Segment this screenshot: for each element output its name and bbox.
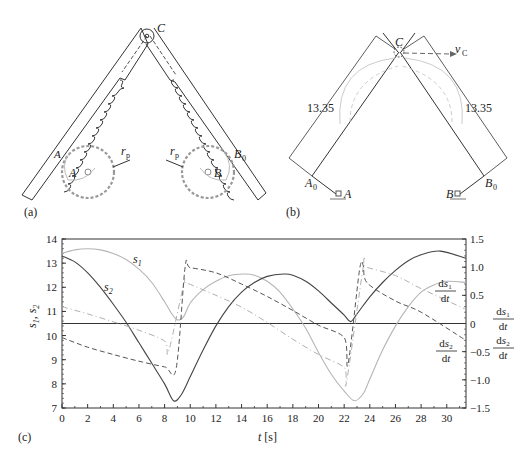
velocity-vc-arrow: [404, 53, 450, 54]
x-tick-label: 24: [364, 412, 376, 424]
panel-a-label: (a): [24, 205, 37, 219]
x-tick-label: 30: [441, 412, 453, 424]
x-tick-label: 4: [111, 412, 117, 424]
panel-a-mechanism: [22, 28, 266, 200]
dimension-right: 13.35: [465, 101, 492, 115]
support-a: [336, 191, 341, 196]
svg-text:ds2: ds2: [496, 334, 510, 348]
arm-ext-right: [401, 33, 415, 52]
dim-left-ext-bot: [289, 158, 312, 176]
left-y-tick-label: 9: [52, 354, 58, 366]
right-axis-label: ds1 dt ds2 dt: [493, 305, 514, 361]
arc-right-outer: [405, 58, 462, 124]
panel-a-labels: C A A B B 0 r p r p (a): [24, 21, 246, 219]
svg-text:dt: dt: [441, 292, 451, 304]
dim-left-line: [289, 36, 376, 158]
svg-text:ds1: ds1: [496, 305, 510, 319]
label-b-c: C: [395, 35, 404, 49]
label-b-a0: A: [304, 176, 313, 190]
left-y-tick-label: 14: [46, 233, 58, 245]
right-rack-teeth: [171, 80, 234, 200]
dimension-left: 13.35: [307, 101, 334, 115]
label-b: B: [214, 166, 222, 180]
left-rp-leader: [113, 160, 130, 167]
dim-right-ext-top: [404, 36, 424, 49]
x-tick-label: 16: [262, 412, 274, 424]
panel-c-label: (c): [18, 430, 31, 444]
right-y-tick-label: 1.0: [470, 261, 484, 273]
left-y-tick-label: 11: [46, 305, 57, 317]
label-vc-sub: C: [462, 49, 467, 58]
svg-text:dt: dt: [499, 349, 509, 361]
right-gear: [182, 146, 234, 198]
annotation-ds2dt-inner: ds2 dt: [436, 337, 457, 364]
arc-left-outer: [340, 58, 395, 124]
left-y-tick-label: 10: [46, 330, 58, 342]
series-s2: [62, 251, 466, 401]
label-rp-right-sub: p: [175, 151, 179, 160]
label-a0: A: [53, 148, 61, 160]
arc-right-inner: [402, 66, 452, 122]
right-y-tick-label: 1.5: [470, 233, 484, 245]
label-rp-left-sub: p: [126, 151, 130, 160]
x-tick-label: 14: [236, 412, 248, 424]
right-y-tick-label: −0.5: [470, 346, 490, 358]
svg-text:dt: dt: [499, 320, 509, 332]
label-b-b0-sub: 0: [493, 183, 497, 192]
series-s1: [62, 249, 466, 401]
x-tick-label: 2: [85, 412, 91, 424]
x-axis-ticks: 024681012141618202224262830: [59, 404, 459, 424]
label-b0: B: [234, 147, 242, 161]
x-tick-label: 6: [136, 412, 142, 424]
x-tick-label: 8: [162, 412, 168, 424]
label-b-a: A: [343, 187, 352, 201]
chart-series: [62, 249, 466, 402]
x-tick-label: 0: [59, 412, 65, 424]
label-vc: v: [455, 42, 461, 56]
right-y-tick-label: −1.0: [470, 374, 490, 386]
svg-text:ds2: ds2: [439, 337, 453, 351]
dim-left-ext-top: [376, 36, 395, 49]
left-y-tick-label: 8: [52, 378, 58, 390]
arc-left-inner: [350, 66, 398, 122]
right-rp-leader: [166, 160, 183, 167]
label-b0-sub: 0: [242, 154, 246, 163]
label-b-b0: B: [485, 176, 493, 190]
x-tick-label: 10: [185, 412, 197, 424]
x-tick-label: 26: [390, 412, 402, 424]
dim-right-ext-bot: [484, 158, 507, 176]
x-tick-label: 28: [416, 412, 428, 424]
label-c: C: [157, 21, 166, 35]
left-y-tick-label: 12: [46, 281, 57, 293]
x-tick-label: 20: [313, 412, 325, 424]
label-a: A: [68, 166, 77, 180]
label-b-a0-sub: 0: [313, 183, 317, 192]
x-tick-label: 22: [339, 412, 350, 424]
x-tick-label: 12: [210, 412, 221, 424]
left-y-tick-label: 13: [46, 257, 58, 269]
left-rack-arm: [22, 28, 148, 200]
svg-text:dt: dt: [442, 352, 452, 364]
crank-b0-b: [460, 176, 484, 194]
support-b: [455, 191, 460, 196]
figure-canvas: C A A B B 0 r p r p (a): [0, 0, 528, 465]
left-y-tick-label: 7: [52, 402, 58, 414]
x-axis-label: t [s]: [258, 430, 277, 444]
label-b-b: B: [446, 187, 454, 201]
right-y-tick-label: 0: [470, 318, 476, 330]
panel-c-chart: 024681012141618202224262830 789101112131…: [18, 233, 514, 444]
annotation-s1: s1: [133, 252, 142, 268]
right-y-tick-label: 0.5: [470, 289, 484, 301]
left-axis-label: s1, s2: [25, 305, 41, 328]
right-y-tick-label: −1.5: [470, 402, 490, 414]
panel-b-label: (b): [286, 205, 300, 219]
panel-b-model: [289, 33, 507, 199]
annotation-s2: s2: [104, 280, 113, 296]
svg-text:ds1: ds1: [438, 277, 452, 291]
x-tick-label: 18: [287, 412, 299, 424]
